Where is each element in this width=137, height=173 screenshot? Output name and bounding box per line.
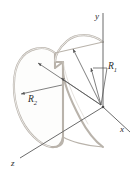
- extrusion-edge-top: [55, 42, 103, 53]
- figure-container: y x z R1 R2: [0, 0, 137, 173]
- r1-leader-to-near-arc-top: [73, 49, 101, 105]
- r2-label: R2: [28, 95, 37, 106]
- y-axis-label: y: [95, 12, 99, 21]
- shell-body: [14, 35, 103, 147]
- z-axis-label: z: [11, 159, 15, 168]
- r2-label-subscript: 2: [34, 99, 37, 106]
- r1-label-connector: [101, 68, 107, 105]
- r1-label: R1: [108, 62, 117, 73]
- x-axis-label: x: [120, 125, 124, 134]
- origin-point: [102, 106, 105, 109]
- near-face-inner-highlight: [55, 35, 103, 62]
- x-axis-line: [103, 107, 130, 132]
- r1-label-subscript: 1: [114, 66, 117, 73]
- technical-diagram-svg: [0, 0, 137, 173]
